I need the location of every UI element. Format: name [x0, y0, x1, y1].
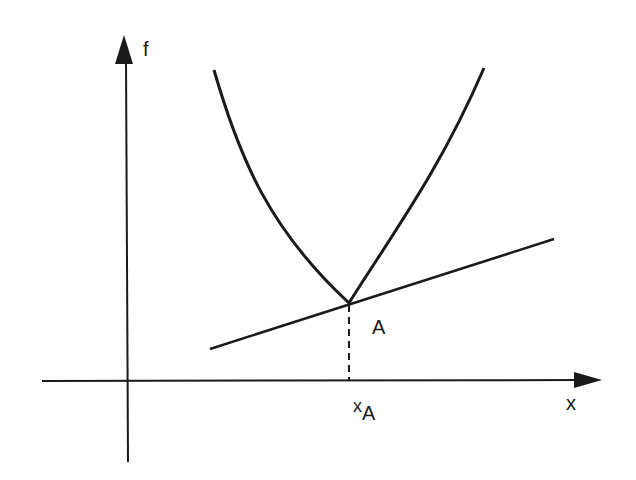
- point-label: A: [372, 316, 386, 338]
- y-axis-arrow-icon: [115, 35, 133, 64]
- x-axis-arrow-icon: [574, 372, 602, 388]
- y-axis: [115, 35, 133, 462]
- x-axis: [42, 372, 602, 388]
- y-axis-label: f: [143, 38, 149, 60]
- function-curve: [214, 68, 484, 303]
- point-x-label: xA: [353, 396, 376, 424]
- x-axis-label: x: [566, 392, 576, 414]
- diagram-canvas: f x A xA: [0, 0, 636, 480]
